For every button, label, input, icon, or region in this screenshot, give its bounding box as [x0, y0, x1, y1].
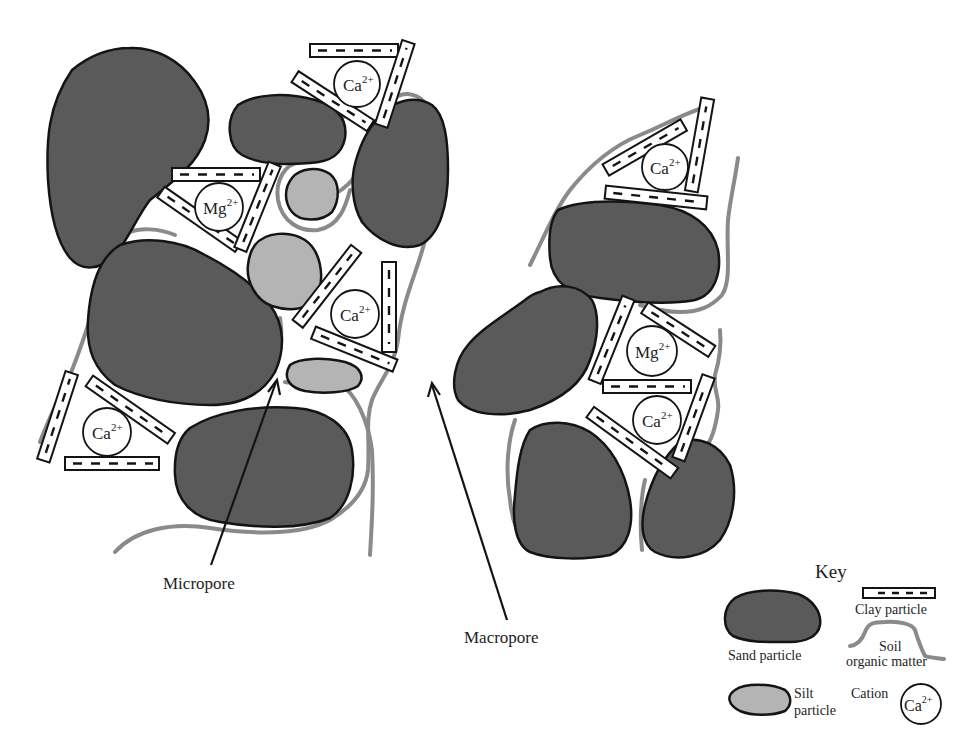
- legend-title: Key: [815, 561, 847, 582]
- cation-mg-right: Mg2+: [627, 326, 677, 376]
- cation-ca-right-bottom: Ca2+: [633, 396, 681, 444]
- legend-cation-swatch: Ca2+: [901, 684, 941, 724]
- sand-particle: [175, 407, 353, 526]
- legend-silt-label-1: Silt: [794, 686, 814, 701]
- macropore-label: Macropore: [464, 628, 539, 647]
- clay-particle: [65, 457, 159, 470]
- cation-ca-lower-left: Ca2+: [83, 408, 131, 456]
- cation-ca-top: Ca2+: [334, 61, 380, 107]
- right-aggregate: Ca2+ Mg2+ Ca2+: [454, 97, 738, 558]
- legend-cation-label: Cation: [851, 686, 888, 701]
- sand-particle: [454, 286, 597, 414]
- legend-organic-matter-label-2: organic matter: [846, 654, 927, 669]
- legend-silt-swatch: [729, 685, 790, 715]
- micropore-label: Micropore: [163, 574, 235, 593]
- legend-sand-swatch: [725, 591, 820, 643]
- legend-sand-label: Sand particle: [728, 648, 801, 663]
- sand-particle: [47, 48, 208, 268]
- sand-particle: [514, 423, 631, 559]
- cation-ca-right-top: Ca2+: [642, 144, 688, 190]
- cation-ca-center: Ca2+: [331, 290, 379, 338]
- clay-particle: [172, 168, 260, 181]
- legend-silt-label-2: particle: [794, 703, 836, 718]
- legend-organic-matter-label-1: Soil: [879, 639, 902, 654]
- legend-clay-swatch: [863, 588, 935, 598]
- clay-particle: [310, 44, 398, 57]
- clay-particle: [37, 371, 78, 463]
- organic-matter-left-inner: [130, 229, 175, 235]
- legend: Key Sand particle Clay particle Soil org…: [725, 561, 944, 724]
- legend-clay-label: Clay particle: [855, 602, 927, 617]
- silt-particle: [286, 169, 338, 219]
- clay-particle: [603, 380, 691, 393]
- soil-aggregate-diagram: Ca2+ Mg2+: [0, 0, 977, 751]
- cation-mg-left: Mg2+: [195, 183, 243, 231]
- silt-particle: [287, 359, 362, 393]
- clay-particle: [382, 262, 396, 352]
- macropore-arrow: [432, 385, 507, 620]
